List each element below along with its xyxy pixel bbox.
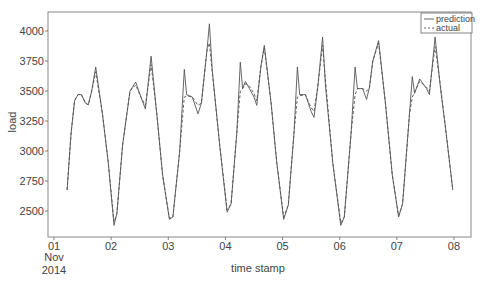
x-tick-label: 06 [334,240,346,252]
x-tick-month-label: Nov [44,251,64,263]
x-tick-label: 05 [276,240,288,252]
y-tick-label: 3500 [20,85,44,97]
y-tick-label: 3250 [20,115,44,127]
x-axis-title: time stamp [231,262,285,274]
x-tick-label: 02 [105,240,117,252]
x-tick-label: 04 [219,240,231,252]
y-axis-title: load [6,112,18,133]
y-axis: 2500275030003250350037504000 [20,25,48,217]
y-tick-label: 3000 [20,145,44,157]
line-chart: 2500275030003250350037504000 01Nov201402… [0,0,484,283]
x-tick-label: 08 [448,240,460,252]
y-tick-label: 2750 [20,175,44,187]
legend: prediction actual [421,13,475,33]
plot-frame [48,12,471,237]
legend-actual-label: actual [436,23,460,33]
y-tick-label: 2500 [20,205,44,217]
y-tick-label: 3750 [20,55,44,67]
x-tick-label: 03 [162,240,174,252]
x-tick-label: 07 [391,240,403,252]
plot-area [48,12,471,237]
x-tick-year-label: 2014 [42,264,66,276]
y-tick-label: 4000 [20,25,44,37]
